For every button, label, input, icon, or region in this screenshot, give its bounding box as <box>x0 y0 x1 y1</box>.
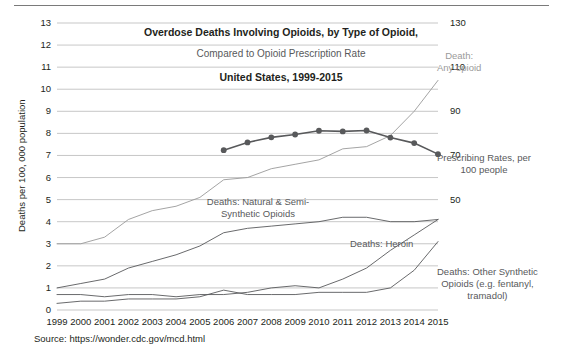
data-point-marker <box>411 140 417 146</box>
data-point-marker <box>268 134 274 140</box>
data-point-marker <box>387 135 393 141</box>
data-point-marker <box>364 128 370 134</box>
series-line-4 <box>224 131 438 155</box>
y-tick-label: 10 <box>29 84 51 94</box>
data-point-marker <box>340 129 346 135</box>
source-note: Source: https://wonder.cdc.gov/mcd.html <box>34 333 205 344</box>
y-tick-label-right: 50 <box>450 195 480 205</box>
y-tick-label: 4 <box>29 217 51 227</box>
y-tick-label: 3 <box>29 239 51 249</box>
y-tick-label: 9 <box>29 106 51 116</box>
y-tick-label: 1 <box>29 283 51 293</box>
series-line-1 <box>57 217 438 288</box>
data-point-marker <box>292 132 298 138</box>
gridlines <box>57 23 438 310</box>
y-tick-label: 5 <box>29 195 51 205</box>
series-label-prescribing-rates: Prescribing Rates, per 100 people <box>437 152 531 176</box>
y-tick-label: 11 <box>29 62 51 72</box>
y-tick-label: 13 <box>29 18 51 28</box>
series-label-other-synthetic: Deaths: Other Synthetic Opioids (e.g. fe… <box>437 266 538 302</box>
y-tick-label: 7 <box>29 150 51 160</box>
y-tick-label-right: 130 <box>450 18 480 28</box>
data-point-marker <box>316 128 322 134</box>
y-tick-label-right: 90 <box>450 106 480 116</box>
series-label-heroin: Deaths: Heroin <box>350 238 413 250</box>
data-point-marker <box>245 140 251 146</box>
y-tick-label: 0 <box>29 305 51 315</box>
chart-figure: Deaths per 100, 000 population Overdose … <box>0 0 563 349</box>
data-point-marker <box>221 147 227 153</box>
series-label-any-opioid: Death: Any opioid <box>437 50 481 74</box>
series-lines <box>57 80 438 303</box>
series-line-3 <box>57 242 438 304</box>
y-tick-label: 8 <box>29 128 51 138</box>
x-tick-label: 2015 <box>423 317 453 327</box>
series-line-2 <box>57 219 438 296</box>
y-tick-label: 6 <box>29 173 51 183</box>
y-tick-label: 12 <box>29 40 51 50</box>
series-label-natural-semi-synthetic: Deaths: Natural & Semi- Synthetic Opioid… <box>198 196 318 220</box>
y-tick-label: 2 <box>29 261 51 271</box>
